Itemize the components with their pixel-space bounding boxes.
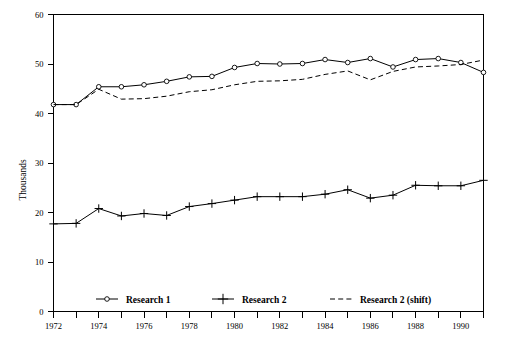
legend-circle-marker-icon	[105, 297, 110, 302]
legend-label: Research 2	[242, 295, 287, 305]
data-point-marker	[119, 84, 124, 89]
data-point-marker	[345, 60, 350, 65]
y-tick-label: 60	[35, 10, 44, 20]
data-point-marker	[413, 57, 418, 62]
x-tick-label: 1974	[90, 321, 108, 331]
data-point-marker	[436, 56, 441, 61]
data-point-marker	[411, 181, 419, 189]
chart-container: 0102030405060 19721974197619781980198219…	[0, 0, 505, 350]
x-tick-label: 1978	[181, 321, 198, 331]
x-tick-label: 1976	[136, 321, 153, 331]
y-tick-label: 40	[35, 109, 44, 119]
data-point-marker	[162, 211, 170, 219]
data-point-marker	[142, 82, 147, 87]
data-series	[54, 60, 484, 105]
data-point-marker	[481, 70, 486, 75]
data-point-marker	[253, 192, 261, 200]
data-point-marker	[278, 62, 283, 67]
data-point-marker	[140, 209, 148, 217]
legend-label: Research 2 (shift)	[360, 295, 431, 306]
data-point-marker	[218, 294, 228, 304]
data-point-marker	[95, 204, 103, 212]
data-point-marker	[208, 199, 216, 207]
data-point-marker	[185, 202, 193, 210]
data-point-marker	[366, 194, 374, 202]
data-point-marker	[300, 61, 305, 66]
legend-item[interactable]: Research 1	[96, 295, 171, 305]
y-axis-label: Thousands	[18, 159, 28, 200]
data-point-marker	[187, 75, 192, 80]
x-axis-ticks: 1972197419761978198019821984198619881990	[45, 312, 484, 331]
data-point-marker	[391, 65, 396, 70]
data-series-group	[49, 56, 487, 228]
data-point-marker	[434, 182, 442, 190]
legend-item[interactable]: Research 2 (shift)	[330, 295, 431, 306]
data-point-marker	[255, 61, 260, 66]
x-tick-label: 1984	[317, 321, 335, 331]
data-point-marker	[321, 190, 329, 198]
data-point-marker	[232, 65, 237, 70]
y-axis-title: Thousands	[18, 159, 28, 200]
x-tick-label: 1982	[271, 321, 288, 331]
chart-legend: Research 1Research 2Research 2 (shift)	[96, 294, 431, 306]
x-tick-label: 1990	[452, 321, 469, 331]
data-point-marker	[368, 56, 373, 61]
data-point-marker	[117, 212, 125, 220]
x-tick-label: 1980	[226, 321, 243, 331]
x-tick-label: 1972	[45, 321, 62, 331]
data-point-marker	[164, 79, 169, 84]
data-point-marker	[457, 182, 465, 190]
x-tick-label: 1988	[407, 321, 424, 331]
x-tick-label: 1986	[362, 321, 379, 331]
y-tick-label: 30	[35, 158, 44, 168]
y-tick-label: 20	[35, 208, 44, 218]
legend-item[interactable]: Research 2	[212, 294, 287, 305]
data-point-marker	[298, 192, 306, 200]
series-line	[54, 60, 484, 105]
y-tick-label: 10	[35, 257, 44, 267]
data-point-marker	[276, 192, 284, 200]
y-axis-ticks: 0102030405060	[35, 10, 54, 317]
data-point-marker	[72, 219, 80, 227]
data-point-marker	[323, 57, 328, 62]
series-line	[54, 180, 484, 224]
line-chart: 0102030405060 19721974197619781980198219…	[0, 0, 505, 350]
data-point-marker	[344, 186, 352, 194]
data-point-marker	[479, 176, 487, 184]
data-point-marker	[210, 74, 215, 79]
data-point-marker	[230, 196, 238, 204]
data-point-marker	[389, 191, 397, 199]
data-point-marker	[49, 220, 57, 228]
data-point-marker	[96, 84, 101, 89]
y-tick-label: 0	[39, 307, 43, 317]
legend-label: Research 1	[126, 295, 171, 305]
y-tick-label: 50	[35, 59, 44, 69]
data-series	[49, 176, 487, 228]
